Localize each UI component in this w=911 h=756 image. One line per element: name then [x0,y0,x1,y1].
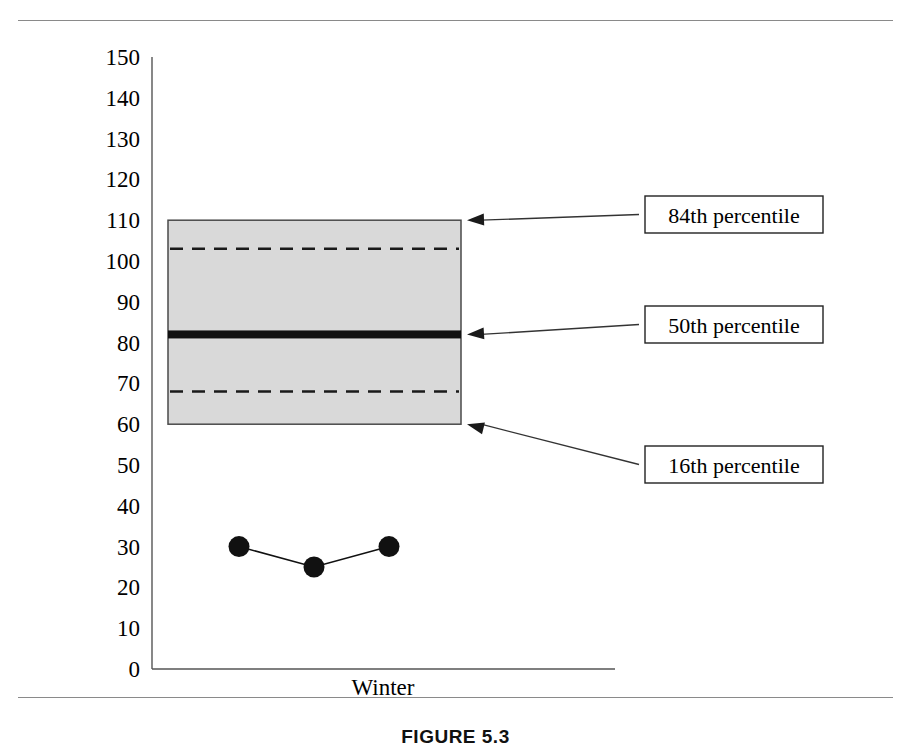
series-markers [229,536,400,577]
data-point-marker [304,557,325,578]
y-tick-label: 110 [106,208,140,233]
figure-page: 0102030405060708090100110120130140150 84… [0,0,911,756]
y-tick-label: 20 [117,575,140,600]
y-tick-label: 120 [106,167,141,192]
x-axis-label: Winter [352,675,415,700]
annotation-arrowhead [467,327,484,339]
box-group [168,220,461,424]
y-tick-label: 70 [117,371,140,396]
y-tick-label: 30 [117,535,140,560]
annotations-group: 84th percentile50th percentile16th perce… [467,196,823,483]
data-point-marker [379,536,400,557]
y-tick-label: 0 [129,657,141,682]
y-tick-label: 90 [117,290,140,315]
y-tick-label: 50 [117,453,140,478]
y-tick-labels: 0102030405060708090100110120130140150 [106,45,141,682]
box-rect [168,220,461,424]
y-tick-label: 130 [106,127,141,152]
annotation-leader-line [481,325,639,335]
median-bar [168,330,461,338]
annotation-leader-line [481,215,639,221]
y-tick-label: 40 [117,494,140,519]
annotation-label: 84th percentile [668,203,799,228]
annotation-arrowhead [467,423,485,435]
y-tick-label: 60 [117,412,140,437]
data-point-marker [229,536,250,557]
annotation-label: 50th percentile [668,313,799,338]
series-group [229,536,400,577]
y-tick-label: 140 [106,86,141,111]
annotation-leader-line [481,424,639,464]
y-tick-label: 80 [117,331,140,356]
annotation-label: 16th percentile [668,453,799,478]
annotation-arrowhead [467,214,484,226]
box-plot-chart: 0102030405060708090100110120130140150 84… [0,0,911,700]
y-tick-label: 100 [106,249,141,274]
y-tick-label: 150 [106,45,141,70]
y-tick-label: 10 [117,616,140,641]
figure-caption: FIGURE 5.3 [0,726,911,748]
